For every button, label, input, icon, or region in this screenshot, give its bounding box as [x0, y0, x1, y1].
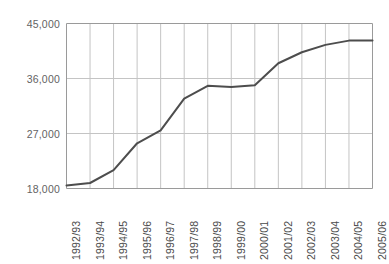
x-axis-tick-label: 2002/03 [306, 220, 317, 259]
line-chart: 45,00036,00027,00018,000 1992/931993/941… [0, 0, 389, 264]
x-axis-tick-label: 2003/04 [330, 220, 341, 259]
x-axis-labels: 1992/931993/941994/951995/961996/971997/… [0, 0, 389, 264]
x-axis-tick-label: 2004/05 [353, 220, 364, 259]
x-axis-tick-label: 1998/99 [212, 220, 223, 259]
x-axis-tick-label: 2000/01 [259, 220, 270, 259]
x-axis-tick-label: 1994/95 [118, 220, 129, 259]
x-axis-tick-label: 2001/02 [283, 220, 294, 259]
x-axis-tick-label: 1995/96 [142, 220, 153, 259]
x-axis-tick-label: 2005/06 [377, 220, 388, 259]
x-axis-tick-label: 1992/93 [71, 220, 82, 259]
x-axis-tick-label: 1993/94 [95, 220, 106, 259]
x-axis-tick-label: 1996/97 [165, 220, 176, 259]
x-axis-tick-label: 1999/00 [236, 220, 247, 259]
x-axis-tick-label: 1997/98 [189, 220, 200, 259]
